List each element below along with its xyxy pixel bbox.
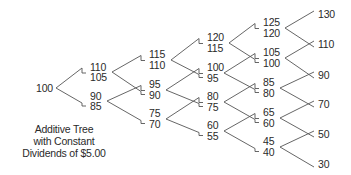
caption-line-2: with Constant: [22, 135, 106, 147]
branch-l4-1-down: [285, 58, 314, 78]
branch-l4-0-down: [285, 28, 314, 47]
node-l2-1-post: 90: [149, 90, 160, 101]
node-l4-3-post: 60: [263, 118, 274, 129]
root-branch-down: [56, 88, 86, 106]
branch-l2-1-up: [166, 69, 203, 91]
branch-l3-3-up: [224, 114, 259, 132]
root-branch-up: [56, 68, 86, 88]
tree-caption: Additive Tree with Constant Dividends of…: [22, 123, 106, 159]
branch-l4-0-up: [285, 11, 314, 28]
branch-l3-2-up: [224, 84, 259, 103]
node-l3-2-post: 75: [207, 102, 218, 113]
node-l3-1-post: 95: [207, 73, 218, 84]
node-l1-1-post: 85: [90, 101, 101, 112]
branch-l3-2-down: [224, 102, 259, 123]
node-l4-2-post: 80: [263, 88, 274, 99]
terminal-node-2: 90: [318, 70, 329, 81]
branch-l4-4-down: [280, 147, 314, 167]
branch-l3-3-down: [224, 131, 259, 152]
node-l1-0-post: 105: [90, 72, 107, 83]
branch-l2-0-up: [171, 39, 203, 61]
caption-line-1: Additive Tree: [22, 123, 106, 135]
branch-l4-1-up: [285, 41, 314, 58]
branch-l4-2-down: [280, 88, 314, 107]
node-l2-0-post: 110: [149, 60, 165, 71]
node-l2-2-post: 70: [149, 119, 160, 130]
node-l3-0-post: 115: [207, 43, 223, 54]
terminal-node-3: 70: [318, 99, 329, 110]
branch-l3-0-up: [229, 24, 259, 44]
branch-l1-0-up: [112, 56, 145, 73]
branch-l4-2-up: [280, 72, 314, 88]
root-node: 100: [36, 83, 53, 94]
branch-l4-3-up: [280, 101, 314, 118]
branch-l4-3-down: [280, 118, 314, 137]
branch-l1-1-down: [107, 101, 145, 124]
branch-l3-1-up: [224, 54, 259, 74]
branch-l3-1-down: [224, 73, 259, 93]
terminal-node-1: 110: [318, 39, 334, 50]
node-l3-3-post: 55: [207, 131, 218, 142]
branch-l2-2-up: [166, 98, 203, 120]
branch-l3-0-down: [229, 43, 259, 63]
branch-l4-4-up: [280, 131, 314, 147]
node-l4-4-post: 40: [263, 147, 274, 158]
caption-line-3: Dividends of $5.00: [22, 147, 106, 159]
terminal-node-5: 30: [318, 159, 329, 170]
node-l4-1-post: 100: [263, 58, 280, 69]
terminal-node-4: 50: [318, 129, 329, 140]
branch-l2-2-down: [166, 119, 203, 136]
terminal-node-0: 130: [318, 9, 335, 20]
branch-l1-1-up: [107, 86, 145, 102]
node-l4-0-post: 120: [263, 28, 280, 39]
